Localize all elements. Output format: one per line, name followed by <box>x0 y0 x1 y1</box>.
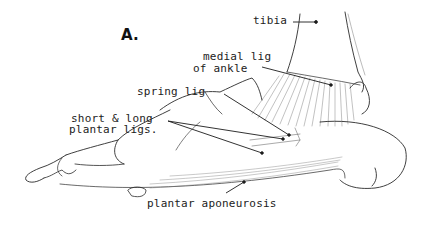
label-medial-lig-line2: of ankle <box>193 63 248 74</box>
foot-drawing <box>0 0 422 229</box>
foot-ligaments-illustration: A. tibia medial lig of ankle spring lig … <box>0 0 422 229</box>
label-tibia: tibia <box>253 15 287 26</box>
label-medial-lig-line1: medial lig <box>203 51 271 62</box>
label-short-long-line2: plantar ligs. <box>69 124 158 135</box>
label-spring-lig: spring lig <box>137 86 205 97</box>
panel-label: A. <box>121 26 139 44</box>
label-plantar-aponeurosis: plantar aponeurosis <box>147 198 277 209</box>
